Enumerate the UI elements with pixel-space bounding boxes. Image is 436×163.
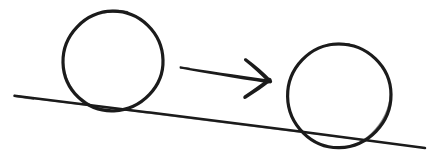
- sketch-drawing: [0, 0, 436, 163]
- sketch-canvas: [0, 0, 436, 163]
- right-circle-closure-overshoot: [327, 44, 349, 45]
- left-circle-closure-overshoot: [104, 11, 127, 12]
